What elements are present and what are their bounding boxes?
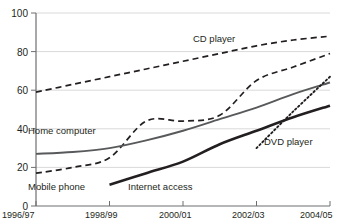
y-tick-label-60: 60 xyxy=(17,85,29,96)
series-line-mobile-phone xyxy=(36,54,330,174)
series-label-home-computer: Home computer xyxy=(28,125,96,136)
y-tick-label-20: 20 xyxy=(17,162,29,173)
y-tick-label-100: 100 xyxy=(11,8,28,19)
series-line-cd-player xyxy=(36,36,330,92)
series-label-dvd-player: DVD player xyxy=(264,136,313,147)
y-tick-label-80: 80 xyxy=(17,47,29,58)
x-tick-label-2000-01: 2000/01 xyxy=(159,210,192,220)
series-label-cd-player: CD player xyxy=(193,33,235,44)
x-tick-label-2002-03: 2002/03 xyxy=(232,210,265,220)
series-lines xyxy=(36,36,330,185)
line-chart: 100 80 60 40 20 0 1996/97 1998/99 2000/0… xyxy=(0,0,338,222)
x-tick-label-2004-05: 2004/05 xyxy=(300,210,333,220)
series-label-internet-access: Internet access xyxy=(128,181,193,192)
y-tick-label-40: 40 xyxy=(17,124,29,135)
chart-canvas: 100 80 60 40 20 0 1996/97 1998/99 2000/0… xyxy=(0,0,338,222)
x-tick-label-1996-97: 1996/97 xyxy=(2,210,35,220)
x-tick-label-1998-99: 1998/99 xyxy=(85,210,118,220)
x-axis: 1996/97 1998/99 2000/01 2002/03 2004/05 xyxy=(2,201,333,220)
series-label-mobile-phone: Mobile phone xyxy=(28,181,85,192)
